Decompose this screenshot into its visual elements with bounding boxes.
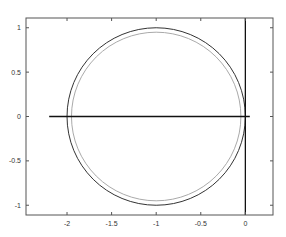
x-tick-label: -0.5 bbox=[195, 220, 207, 227]
x-tick-label: 0 bbox=[243, 220, 247, 227]
y-tick-label: -1 bbox=[15, 202, 21, 209]
y-tick-label: 1 bbox=[17, 24, 21, 31]
x-tick-label: -1 bbox=[153, 220, 159, 227]
x-tick-label: -2 bbox=[64, 220, 70, 227]
y-tick-label: -0.5 bbox=[9, 157, 21, 164]
y-tick-label: 0 bbox=[17, 113, 21, 120]
chart: -2-1.5-1-0.50-1-0.500.51 bbox=[0, 0, 286, 237]
y-tick-label: 0.5 bbox=[11, 69, 21, 76]
x-tick-label: -1.5 bbox=[106, 220, 118, 227]
